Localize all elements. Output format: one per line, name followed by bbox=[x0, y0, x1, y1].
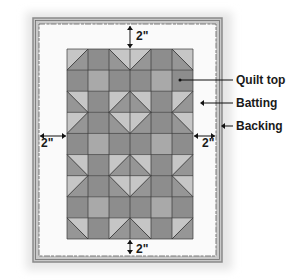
quilt-cell bbox=[151, 91, 172, 112]
quilt-top-layer bbox=[67, 49, 193, 239]
quilt-cell bbox=[88, 49, 109, 70]
label-batting: Batting bbox=[236, 97, 277, 109]
quilt-layers-diagram: 2" 2" 2" 2" Quilt top Batting Backing bbox=[0, 0, 301, 280]
quilt-cell bbox=[151, 49, 172, 70]
quilt-cell bbox=[130, 70, 151, 91]
quilt-cell bbox=[109, 70, 130, 91]
quilt-cell bbox=[88, 91, 109, 112]
quilt-cell bbox=[130, 133, 151, 154]
quilt-cell bbox=[88, 197, 109, 218]
label-backing: Backing bbox=[236, 120, 283, 132]
quilt-cell bbox=[109, 197, 130, 218]
quilt-cell bbox=[151, 218, 172, 239]
quilt-cell bbox=[151, 155, 172, 176]
quilt-cell bbox=[151, 133, 172, 154]
quilt-cell bbox=[88, 155, 109, 176]
quilt-cell bbox=[88, 218, 109, 239]
dimension-left-label: 2" bbox=[41, 137, 53, 149]
quilt-cell bbox=[109, 133, 130, 154]
quilt-cell bbox=[172, 70, 193, 91]
quilt-cell bbox=[67, 70, 88, 91]
quilt-cell bbox=[172, 197, 193, 218]
dimension-top-label: 2" bbox=[136, 30, 148, 42]
quilt-cell bbox=[151, 70, 172, 91]
quilt-cell bbox=[151, 112, 172, 133]
quilt-cell bbox=[151, 176, 172, 197]
quilt-cell bbox=[67, 133, 88, 154]
label-quilt-top: Quilt top bbox=[236, 74, 285, 86]
leader-dot bbox=[179, 79, 182, 82]
dimension-right-label: 2" bbox=[202, 137, 214, 149]
quilt-cell bbox=[151, 197, 172, 218]
quilt-cell bbox=[88, 133, 109, 154]
quilt-cell bbox=[88, 176, 109, 197]
quilt-cell bbox=[130, 197, 151, 218]
quilt-cell bbox=[67, 197, 88, 218]
dimension-bottom-label: 2" bbox=[136, 243, 148, 255]
quilt-cell bbox=[88, 112, 109, 133]
quilt-cell bbox=[88, 70, 109, 91]
quilt-cell bbox=[172, 133, 193, 154]
